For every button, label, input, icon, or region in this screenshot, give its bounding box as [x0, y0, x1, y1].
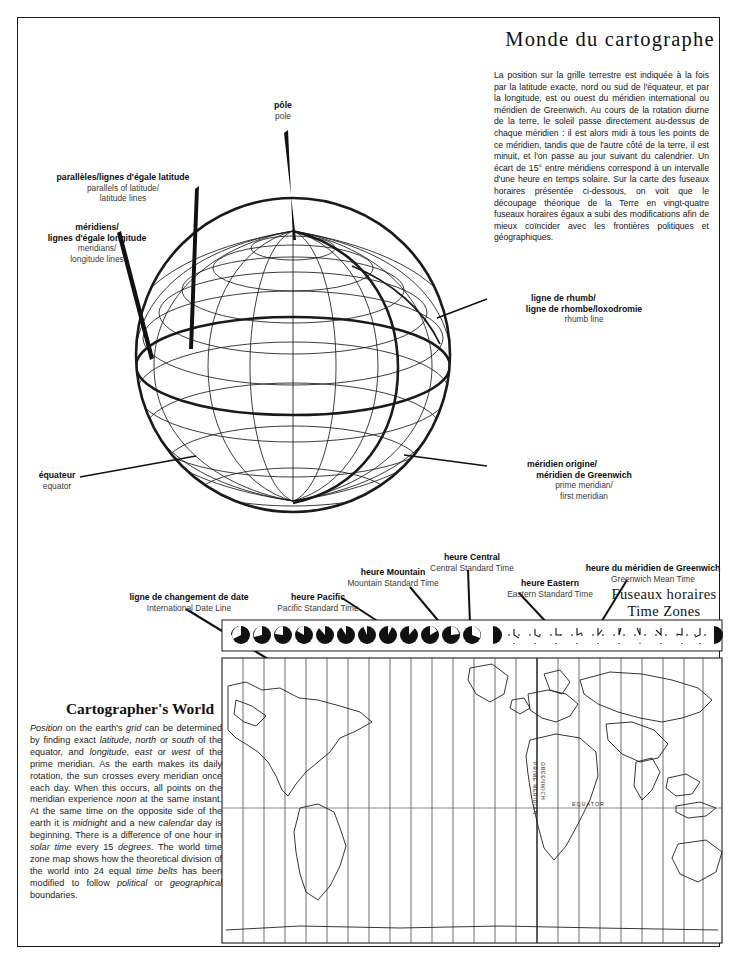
- label-greenwich-mean-time: heure du méridien de Greenwich Greenwich…: [569, 563, 737, 584]
- label-pacific-time: heure Pacific Pacific Standard Time: [253, 592, 383, 613]
- label-rhumb-fr1: ligne de rhumb/: [495, 293, 673, 304]
- timezone-heading-fr: Fuseaux horaires: [601, 586, 727, 603]
- label-meridians: méridiens/ lignes d'égale longitude meri…: [22, 222, 172, 264]
- map-equator-label: EQUATOR: [572, 801, 605, 807]
- label-central-en: Central Standard Time: [409, 563, 535, 574]
- label-pole-en: pole: [248, 111, 318, 122]
- leader-prime-meridian: [404, 455, 487, 466]
- label-prime-meridian: méridien origine/ méridien de Greenwich …: [495, 459, 673, 501]
- label-meridians-fr1: méridiens/: [22, 222, 172, 233]
- leader-mountain: [410, 587, 441, 624]
- clock-strip: [222, 620, 723, 651]
- label-prime-meridian-fr2: méridien de Greenwich: [495, 470, 673, 481]
- timezone-heading: Fuseaux horaires Time Zones: [601, 586, 727, 620]
- prime-meridian-line: [293, 231, 398, 503]
- label-date-line-en: International Date Line: [106, 603, 272, 614]
- map-greenwich-label: GREENWICH: [540, 762, 546, 800]
- label-parallels: parallèles/lignes d'égale latitude paral…: [38, 172, 208, 204]
- english-intro-paragraph: Position on the earth's grid can be dete…: [30, 723, 222, 902]
- leader-rhumb: [437, 299, 487, 318]
- label-gmt-en: Greenwich Mean Time: [569, 574, 737, 585]
- label-meridians-en1: meridians/: [22, 243, 172, 254]
- label-mountain-en: Mountain Standard Time: [325, 578, 461, 589]
- label-rhumb-en: rhumb line: [495, 314, 673, 325]
- label-pacific-fr: heure Pacific: [253, 592, 383, 603]
- label-international-date-line: ligne de changement de date Internationa…: [106, 592, 272, 613]
- label-equator-en: equator: [26, 481, 88, 492]
- label-meridians-fr2: lignes d'égale longitude: [22, 233, 172, 244]
- map-prime-meridian-label: PRIME MERIDIAN: [532, 762, 538, 815]
- label-pacific-en: Pacific Standard Time: [253, 603, 383, 614]
- label-date-line-fr: ligne de changement de date: [106, 592, 272, 603]
- label-pole-fr: pôle: [248, 100, 318, 111]
- label-parallels-en1: parallels of latitude/: [38, 183, 208, 194]
- leader-pole: [284, 130, 296, 240]
- label-prime-meridian-en1: prime meridian/: [495, 480, 673, 491]
- world-map: EQUATOR PRIME MERIDIAN GREENWICH: [222, 658, 722, 943]
- page-title-en: Cartographer's World: [42, 700, 238, 718]
- label-rhumb-fr2: ligne de rhombe/loxodromie: [495, 304, 673, 315]
- globe-grid: [116, 231, 470, 528]
- label-rhumb-line: ligne de rhumb/ ligne de rhombe/loxodrom…: [495, 293, 673, 325]
- label-central-time: heure Central Central Standard Time: [409, 552, 535, 573]
- label-parallels-en2: latitude lines: [38, 193, 208, 204]
- label-equator: équateur equator: [26, 470, 88, 491]
- label-prime-meridian-fr1: méridien origine/: [495, 459, 673, 470]
- timezone-heading-en: Time Zones: [601, 603, 727, 620]
- label-prime-meridian-en2: first meridian: [495, 491, 673, 502]
- label-equator-fr: équateur: [26, 470, 88, 481]
- label-pole: pôle pole: [248, 100, 318, 121]
- label-parallels-fr: parallèles/lignes d'égale latitude: [38, 172, 208, 183]
- label-eastern-en: Eastern Standard Time: [487, 589, 613, 600]
- page-title-fr: Monde du cartographe: [495, 28, 725, 51]
- label-central-fr: heure Central: [409, 552, 535, 563]
- leader-equator: [80, 456, 196, 477]
- leader-central: [468, 570, 470, 624]
- label-gmt-fr: heure du méridien de Greenwich: [569, 563, 737, 574]
- french-intro-paragraph: La position sur la grille terrestre est …: [494, 70, 709, 244]
- label-meridians-en2: longitude lines: [22, 254, 172, 265]
